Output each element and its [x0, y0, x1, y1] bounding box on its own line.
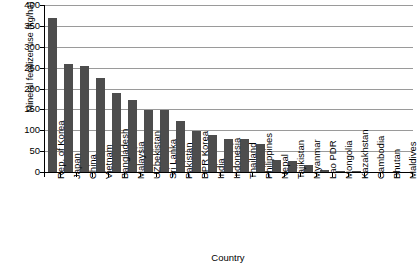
y-axis-tick-label: 150	[0, 104, 40, 114]
x-axis-tick-label: Myanmar	[312, 139, 322, 179]
y-axis-tick-label: 100	[0, 125, 40, 135]
x-axis-tick-label: Vietnam	[104, 144, 114, 179]
y-axis-tick-label: 50	[0, 146, 40, 156]
x-axis-tick-label: Bhutan	[392, 149, 402, 179]
x-axis-tick-label: India	[216, 158, 226, 179]
x-axis-tick-label: Maldives	[408, 142, 418, 180]
x-axis-tick-label: DPR Korea	[200, 131, 210, 179]
y-axis-tick-label: 300	[0, 42, 40, 52]
x-axis-tick-label: Rep. of Korea	[56, 120, 66, 179]
x-axis-tick-label: Malaysia	[136, 142, 146, 180]
x-axis-tick-label: Cambodia	[376, 136, 386, 179]
x-axis-tick-label: UZbekistan	[152, 131, 162, 179]
y-axis-tick-label: 350	[0, 21, 40, 31]
x-axis-tick-label: Mongolia	[344, 140, 354, 179]
x-axis-tick-label: China	[88, 154, 98, 179]
y-axis-tick-label: 0	[0, 167, 40, 177]
y-axis-tick-label: 250	[0, 63, 40, 73]
x-axis-tick-label: Pakistan	[184, 143, 194, 179]
y-axis-tick-label: 200	[0, 84, 40, 94]
x-axis-tick-mark	[44, 172, 45, 177]
x-axis-tick-label: Japan	[72, 153, 82, 179]
x-axis-tick-label: Tajikistan	[296, 140, 306, 179]
gridline	[45, 172, 413, 173]
y-axis-tick-label: 400	[0, 0, 40, 10]
x-axis-title: Country	[44, 252, 412, 263]
x-axis-tick-label: Thailand	[248, 143, 258, 179]
bar-series	[44, 5, 412, 172]
x-axis-tick-label: Philippines	[264, 133, 274, 179]
x-axis-tick-label: Indonesia	[232, 138, 242, 179]
x-axis-tick-label: Kazakhstan	[360, 129, 370, 179]
x-axis-tick-label: Sri Lanka	[168, 139, 178, 179]
x-axis-tick-label: Bangladesh	[120, 129, 130, 179]
x-axis-tick-label: Nepal	[280, 154, 290, 179]
x-axis-tick-label: Lao PDR	[328, 140, 338, 179]
